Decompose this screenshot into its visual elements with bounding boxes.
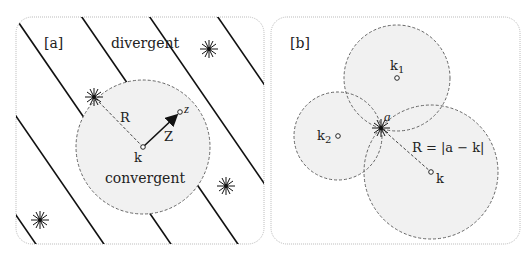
center-point-k [141, 145, 146, 150]
panel-b: [b] k1 k2 k a R = |a − k| [271, 17, 520, 244]
center-point-k1 [395, 76, 400, 81]
point-z [178, 110, 183, 115]
figure-canvas: [a] divergent convergent R Z k z [b] k1 … [0, 0, 530, 255]
center-point-k [429, 170, 434, 175]
panel-b-tag: [b] [290, 35, 310, 51]
singularity-label-a: a [384, 109, 391, 124]
point-label-z: z [183, 101, 189, 116]
center-label-k: k [134, 150, 142, 165]
k-label: k [436, 171, 444, 186]
convergent-label: convergent [105, 170, 185, 186]
center-point-k2 [336, 134, 341, 139]
divergent-label: divergent [111, 35, 180, 51]
radius-label: R [120, 110, 131, 125]
panel-a-tag: [a] [44, 35, 63, 51]
radius-formula: R = |a − k| [412, 140, 485, 155]
vector-label: Z [164, 129, 173, 144]
